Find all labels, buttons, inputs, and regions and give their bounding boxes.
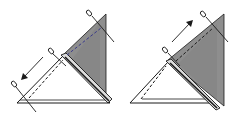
arrow-down-left-icon (21, 57, 43, 80)
folded-triangle-illustration (0, 0, 116, 116)
diagram-panel-1: Folded triangle pinned at three points; … (0, 0, 116, 116)
arrow-up-right-icon (172, 20, 193, 42)
diagram-panel-2: Folded triangle pinned at two points; ar… (116, 0, 233, 116)
folded-triangle-illustration (116, 0, 233, 116)
